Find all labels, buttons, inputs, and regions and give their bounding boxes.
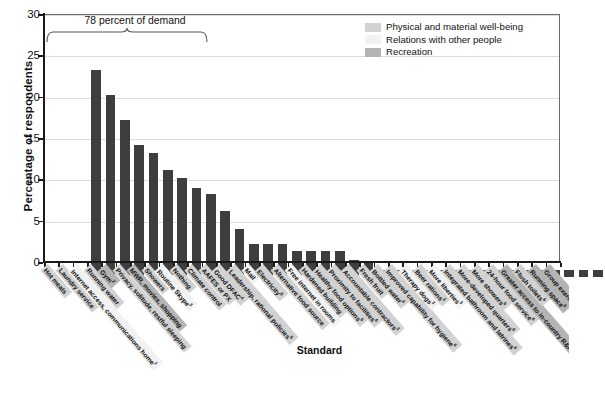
bar [120, 120, 129, 277]
y-axis-line [43, 13, 45, 263]
legend-label: Physical and material well-being [386, 22, 523, 32]
y-tick-label: 20 [2, 92, 40, 102]
x-axis-category-labels: Hot mealsLaundry serviceInternet access,… [0, 262, 569, 402]
bar [149, 153, 158, 277]
y-tick-label: 15 [2, 133, 40, 143]
legend-label: Recreation [386, 47, 432, 57]
y-tick-mark [38, 179, 43, 181]
legend-swatch-icon [365, 23, 381, 32]
legend: Physical and material well-beingRelation… [365, 22, 523, 60]
brace-annotation-label: 78 percent of demand [60, 15, 210, 26]
y-tick-label: 10 [2, 174, 40, 184]
y-tick-mark [38, 14, 43, 16]
y-tick-mark [38, 55, 43, 57]
legend-item: Recreation [365, 47, 523, 57]
y-axis-title: Percentage of respondents [22, 16, 34, 256]
bar [91, 70, 100, 277]
brace-annotation-icon [46, 28, 216, 44]
y-tick-label: 5 [2, 216, 40, 226]
bar [106, 95, 115, 277]
bar [134, 145, 143, 277]
x-axis-title: Standard [0, 344, 569, 356]
legend-item: Physical and material well-being [365, 22, 523, 32]
legend-swatch-icon [365, 48, 381, 57]
legend-item: Relations with other people [365, 35, 523, 45]
legend-label: Relations with other people [386, 35, 502, 45]
y-tick-mark [38, 221, 43, 223]
y-tick-label: 30 [2, 9, 40, 19]
y-tick-label: 25 [2, 50, 40, 60]
y-tick-mark [38, 138, 43, 140]
bar [593, 270, 602, 277]
y-tick-mark [38, 97, 43, 99]
legend-swatch-icon [365, 35, 381, 44]
bar [579, 270, 588, 277]
bar-series [89, 29, 605, 277]
